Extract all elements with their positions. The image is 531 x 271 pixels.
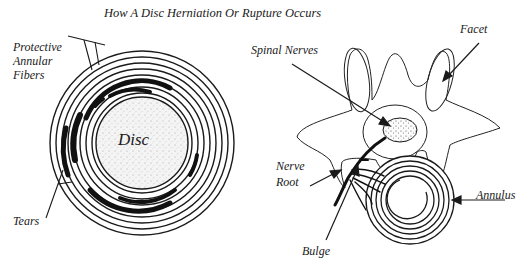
diagram-artwork bbox=[0, 0, 531, 271]
annulus-rings bbox=[366, 156, 454, 244]
facet-label: Facet bbox=[460, 22, 487, 36]
annulus-label: Annulus bbox=[476, 188, 515, 202]
protective-label-line1: Protective bbox=[13, 40, 62, 54]
nerve-root-label-line1: Nerve bbox=[276, 159, 305, 173]
diagram-title: How A Disc Herniation Or Rupture Occurs bbox=[104, 6, 321, 20]
protective-fibers-pointer bbox=[68, 36, 105, 70]
spinal-nerves bbox=[383, 118, 417, 142]
bulge-label: Bulge bbox=[302, 244, 330, 258]
protective-label-line3: Fibers bbox=[13, 68, 44, 82]
disc-herniation-diagram: How A Disc Herniation Or Rupture Occurs … bbox=[0, 0, 531, 271]
protective-label-line2: Annular bbox=[13, 54, 52, 68]
tears-label: Tears bbox=[13, 214, 39, 228]
spinal-nerves-label: Spinal Nerves bbox=[251, 43, 318, 57]
nerve-root-label-line2: Root bbox=[276, 175, 299, 189]
disc-label: Disc bbox=[118, 133, 149, 147]
